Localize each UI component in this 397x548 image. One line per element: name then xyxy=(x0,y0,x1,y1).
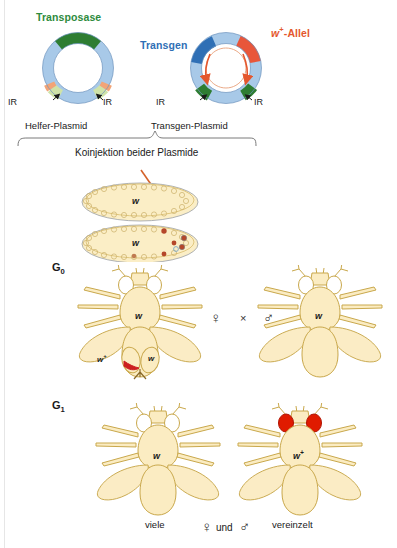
g1-white-genotype-gene: w xyxy=(153,451,160,461)
g1-white-fly-genotype: w xyxy=(153,450,160,461)
g1-red-genotype-superscript: + xyxy=(300,449,304,456)
g0-flies xyxy=(0,265,397,395)
ovary-left-superscript: + xyxy=(103,353,106,359)
embryo-diagrams xyxy=(0,180,397,262)
transgene-ir-right-label: IR xyxy=(254,98,263,107)
g1-male-sex-symbol: ♂ xyxy=(239,519,250,534)
g1-und-label: und xyxy=(216,523,233,533)
transgene-ir-left-label: IR xyxy=(156,98,165,107)
g0-male-sex-symbol: ♂ xyxy=(263,310,274,325)
embryo-2-genotype: w xyxy=(132,239,139,248)
g1-red-fly-genotype: w+ xyxy=(293,450,304,461)
embryo-1-genotype: w xyxy=(132,197,139,206)
ovary-left-genotype: w+ xyxy=(97,354,107,364)
transgen-label: Transgen xyxy=(140,40,187,51)
w-plus-allel-label: w+-Allel xyxy=(271,26,310,38)
g0-male-genotype: w xyxy=(315,312,322,321)
ovary-right-genotype: w xyxy=(148,355,154,363)
helper-plasmid-ring xyxy=(43,33,114,104)
embryo-after-injection xyxy=(82,225,198,262)
g1-red-genotype-gene: w xyxy=(293,451,300,461)
cross-symbol: × xyxy=(240,313,246,324)
g1-female-sex-symbol: ♀ xyxy=(201,519,212,534)
koinjektion-label: Koinjektion beider Plasmide xyxy=(75,148,198,158)
g0-male-fly xyxy=(258,265,382,377)
transposase-label: Transposase xyxy=(36,12,101,23)
g1-red-frequency-label: vereinzelt xyxy=(272,520,313,530)
figure-drosophila-transformation: Transposase IR IR Transgen w+-Allel IR I… xyxy=(0,0,397,548)
embryo-before-injection xyxy=(82,183,198,221)
w-plus-allel-superscript: + xyxy=(279,25,284,34)
g1-white-frequency-label: viele xyxy=(145,520,165,530)
g0-female-sex-symbol: ♀ xyxy=(210,310,221,325)
transgene-plasmid-ring xyxy=(191,33,262,104)
helper-ir-left-label: IR xyxy=(8,98,17,107)
g1-flies xyxy=(0,403,397,528)
g0-female-genotype: w xyxy=(135,312,142,321)
helper-ir-right-label: IR xyxy=(103,98,112,107)
